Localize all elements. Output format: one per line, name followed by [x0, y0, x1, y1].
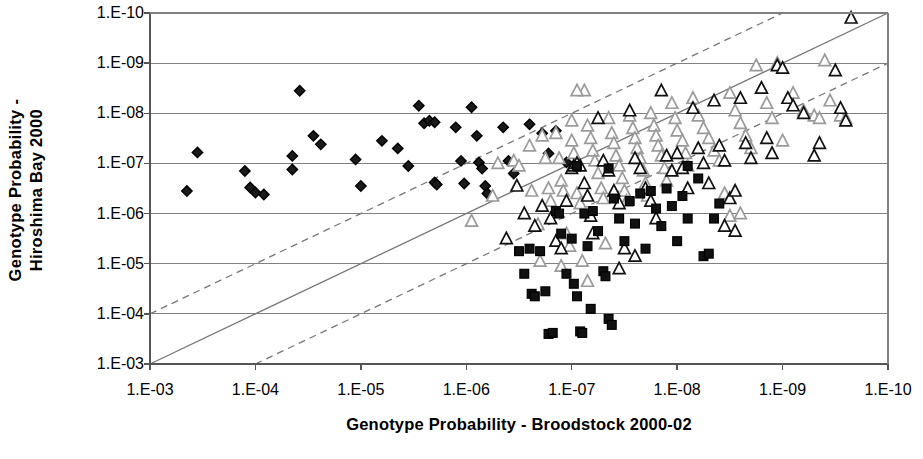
data-point [582, 275, 594, 286]
data-point [761, 132, 773, 143]
data-point [625, 197, 634, 206]
data-point [729, 104, 741, 115]
data-point [698, 157, 710, 168]
data-point [652, 204, 661, 213]
data-point [568, 147, 580, 158]
data-point [583, 242, 592, 251]
data-point [580, 209, 589, 218]
data-point [594, 227, 603, 236]
data-point [524, 139, 536, 150]
data-point [694, 174, 703, 183]
data-point [240, 166, 250, 176]
data-point [582, 119, 594, 130]
data-point [683, 162, 692, 171]
data-point [562, 269, 571, 278]
data-point [536, 247, 545, 256]
data-point [601, 272, 610, 281]
data-point [472, 131, 482, 141]
data-point [316, 139, 326, 149]
data-point [573, 292, 582, 301]
data-point [735, 117, 747, 128]
data-point [715, 199, 724, 208]
data-point [566, 114, 578, 125]
data-point [555, 209, 564, 218]
data-point [698, 122, 710, 133]
data-point [631, 219, 640, 228]
data-point [414, 101, 424, 111]
data-point [459, 178, 469, 188]
data-point [678, 192, 687, 201]
data-point [295, 86, 305, 96]
data-point [555, 175, 567, 186]
data-point [586, 304, 595, 313]
data-point [629, 250, 641, 261]
data-point [515, 247, 524, 256]
data-point [498, 122, 508, 132]
data-point [588, 207, 597, 216]
data-point [576, 255, 588, 266]
data-point [655, 84, 667, 95]
data-point [620, 237, 629, 246]
data-point [182, 186, 192, 196]
data-point [543, 182, 555, 193]
data-point [511, 180, 523, 191]
data-point [566, 134, 578, 145]
data-point [525, 244, 534, 253]
data-point [708, 94, 720, 105]
data-point [824, 94, 836, 105]
series-diamonds [182, 86, 572, 200]
data-point [756, 82, 768, 93]
data-point [287, 164, 297, 174]
data-point [704, 249, 713, 258]
data-point [578, 329, 587, 338]
data-point [530, 292, 539, 301]
plot-area [0, 0, 923, 459]
data-point [609, 194, 618, 203]
data-point [534, 255, 546, 266]
data-point [500, 232, 512, 243]
data-point [766, 147, 778, 158]
data-point [607, 320, 616, 329]
data-point [393, 143, 403, 153]
data-point [569, 279, 578, 288]
data-point [541, 287, 550, 296]
data-point [683, 214, 692, 223]
data-point [645, 107, 657, 118]
data-point [615, 214, 624, 223]
data-point [819, 54, 831, 65]
data-point [356, 181, 366, 191]
data-point [553, 152, 565, 163]
data-point [657, 222, 666, 231]
data-point [466, 215, 478, 226]
data-point [610, 150, 622, 161]
data-point [703, 177, 715, 188]
data-point [578, 177, 590, 188]
data-point [545, 195, 557, 206]
x-axis-title: Genotype Probability - Broodstock 2000-0… [150, 415, 888, 434]
data-point [808, 150, 820, 161]
data-point [259, 189, 269, 199]
data-point [192, 147, 202, 157]
data-point [520, 269, 529, 278]
data-point [673, 237, 682, 246]
data-point [524, 119, 534, 129]
data-point [557, 229, 566, 238]
data-point [287, 151, 297, 161]
data-point [667, 202, 676, 211]
data-point [671, 124, 683, 135]
data-point [724, 87, 736, 98]
data-point [835, 102, 847, 113]
data-point [636, 189, 645, 198]
data-point [573, 162, 582, 171]
data-point [466, 102, 476, 112]
data-point [595, 182, 607, 193]
data-point [627, 122, 639, 133]
data-point [492, 157, 504, 168]
data-point [750, 59, 762, 70]
data-point [606, 127, 618, 138]
data-point [648, 119, 660, 130]
data-point [624, 104, 636, 115]
data-point [518, 207, 530, 218]
data-point [585, 132, 597, 143]
data-point [567, 234, 576, 243]
